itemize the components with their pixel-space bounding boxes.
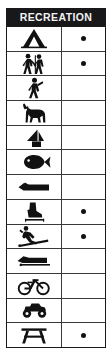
horse-icon	[7, 101, 62, 125]
motorboat-icon	[7, 175, 62, 199]
availability-cell	[62, 200, 105, 224]
availability-cell	[62, 274, 105, 298]
table-row[interactable]	[7, 249, 105, 274]
availability-cell	[62, 52, 105, 76]
table-row[interactable]	[7, 150, 105, 175]
sailboat-icon	[7, 126, 62, 150]
table-row[interactable]	[7, 299, 105, 324]
picnic-table-icon	[7, 323, 62, 347]
availability-cell	[62, 150, 105, 174]
table-row[interactable]	[7, 27, 105, 52]
availability-dot	[81, 61, 86, 66]
availability-cell	[62, 76, 105, 100]
table-row[interactable]	[7, 225, 105, 250]
table-row[interactable]	[7, 126, 105, 151]
downhill-skier-icon	[7, 225, 62, 249]
table-row[interactable]	[7, 274, 105, 299]
legend-table	[6, 26, 106, 348]
availability-cell	[62, 299, 105, 323]
availability-dot	[81, 234, 86, 239]
hikers-icon	[7, 52, 62, 76]
table-row[interactable]	[7, 323, 105, 347]
availability-dot	[81, 209, 86, 214]
availability-dot	[81, 333, 86, 338]
availability-cell	[62, 323, 105, 347]
fish-icon	[7, 150, 62, 174]
legend-title: RECREATION	[20, 12, 93, 23]
tent-icon	[7, 27, 62, 51]
off-road-vehicle-icon	[7, 299, 62, 323]
availability-cell	[62, 249, 105, 273]
availability-cell	[62, 126, 105, 150]
bicycle-icon	[7, 274, 62, 298]
walking-person-icon	[7, 76, 62, 100]
table-row[interactable]	[7, 101, 105, 126]
snowmobile-icon	[7, 249, 62, 273]
legend-header: RECREATION	[6, 8, 106, 26]
ice-skate-icon	[7, 200, 62, 224]
availability-cell	[62, 175, 105, 199]
table-row[interactable]	[7, 76, 105, 101]
availability-cell	[62, 101, 105, 125]
table-row[interactable]	[7, 175, 105, 200]
availability-cell	[62, 225, 105, 249]
availability-dot	[81, 36, 86, 41]
recreation-legend: RECREATION	[0, 0, 112, 352]
table-row[interactable]	[7, 52, 105, 77]
availability-cell	[62, 27, 105, 51]
table-row[interactable]	[7, 200, 105, 225]
